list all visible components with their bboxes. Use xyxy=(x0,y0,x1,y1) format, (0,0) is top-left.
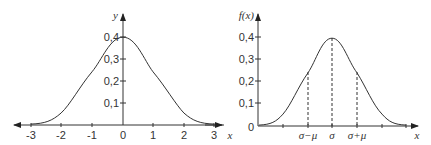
right-x-tick-label: σ+μ xyxy=(348,129,367,141)
left-y-tick-label: 0,4 xyxy=(104,31,119,43)
left-x-tick-label: 1 xyxy=(150,129,156,141)
left-y-tick-label: 0,3 xyxy=(104,53,119,65)
right-y-tick-label: 0,1 xyxy=(239,97,254,109)
right-x-tick-label: σ−μ xyxy=(299,129,318,141)
right-y-tick-label: 0,4 xyxy=(239,31,254,43)
right-normal-curve xyxy=(259,38,406,125)
left-chart: -3 -2 -1 0 1 2 3 x 0,1 0,2 0,3 0,4 y xyxy=(14,9,233,141)
left-x-tick-label: 0 xyxy=(120,129,126,141)
left-x-tick-label: 2 xyxy=(181,129,187,141)
left-y-tick-label: 0,2 xyxy=(104,75,119,87)
left-x-axis-label: x xyxy=(227,129,233,141)
left-x-tick-label: -3 xyxy=(26,129,36,141)
left-x-tick-label: -1 xyxy=(87,129,97,141)
left-y-tick-label: 0,1 xyxy=(104,97,119,109)
right-dashed-guides xyxy=(308,38,357,126)
right-chart: 0 σ−μ σ σ+μ x 0,1 0,2 0,3 0,4 f(x) xyxy=(239,9,420,141)
left-x-tick-label: -2 xyxy=(56,129,66,141)
right-origin-label: 0 xyxy=(248,121,254,133)
charts-canvas: -3 -2 -1 0 1 2 3 x 0,1 0,2 0,3 0,4 y xyxy=(0,0,431,145)
left-x-tick-label: 3 xyxy=(211,129,217,141)
right-y-axis-label: f(x) xyxy=(239,9,255,22)
left-y-axis-label: y xyxy=(112,9,118,21)
right-x-axis-label: x xyxy=(414,129,420,141)
right-y-tick-label: 0,2 xyxy=(239,75,254,87)
right-x-tick-label: σ xyxy=(329,129,335,141)
right-y-tick-label: 0,3 xyxy=(239,53,254,65)
